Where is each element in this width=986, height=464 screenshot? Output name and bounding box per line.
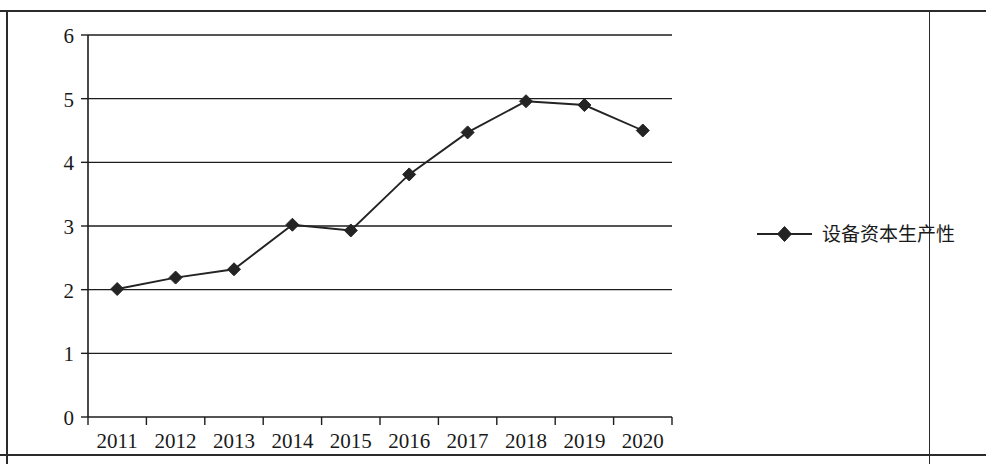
series-markers-group — [111, 95, 650, 296]
chart-page: 0123456 20112012201320142015201620172018… — [0, 0, 986, 464]
legend-item-label: 设备资本生产性 — [822, 223, 955, 245]
y-axis-tick-labels: 0123456 — [64, 24, 75, 430]
y-tick-label: 5 — [64, 88, 75, 112]
diamond-marker-icon — [778, 227, 792, 242]
x-tick-label: 2018 — [505, 429, 547, 453]
x-tick-label: 2019 — [563, 429, 605, 453]
data-point-marker — [111, 283, 124, 296]
data-point-marker — [636, 124, 649, 137]
series-line — [117, 101, 643, 289]
chart-legend: 设备资本生产性 — [757, 223, 955, 245]
x-tick-label: 2011 — [97, 429, 138, 453]
y-tick-label: 6 — [64, 24, 75, 48]
data-point-marker — [461, 126, 474, 139]
x-tick-label: 2015 — [330, 429, 372, 453]
chart-canvas: 0123456 20112012201320142015201620172018… — [0, 0, 986, 464]
x-tick-label: 2014 — [271, 429, 314, 453]
x-axis-tick-labels: 2011201220132014201520162017201820192020 — [97, 429, 664, 453]
y-tick-label: 2 — [64, 279, 75, 303]
gridlines-group — [88, 35, 672, 353]
x-tick-label: 2012 — [155, 429, 197, 453]
x-tick-label: 2020 — [622, 429, 664, 453]
data-point-marker — [169, 271, 182, 284]
line-chart-figure: 0123456 20112012201320142015201620172018… — [0, 0, 986, 464]
y-tick-label: 3 — [64, 215, 75, 239]
x-tick-label: 2013 — [213, 429, 255, 453]
series-lines-group — [117, 101, 643, 289]
data-point-marker — [520, 95, 533, 108]
x-tick-label: 2016 — [388, 429, 430, 453]
y-tick-label: 4 — [64, 151, 75, 175]
x-tick-label: 2017 — [447, 429, 489, 453]
tick-marks-group — [81, 35, 672, 425]
y-tick-label: 0 — [64, 406, 75, 430]
y-tick-label: 1 — [64, 342, 75, 366]
data-point-marker — [578, 99, 591, 112]
